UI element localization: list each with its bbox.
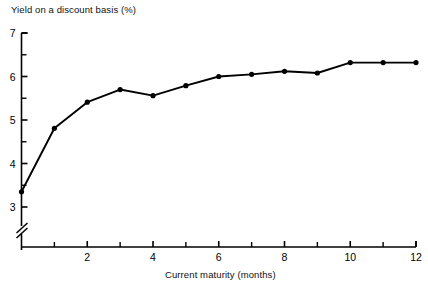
line-chart-plot: 34567 24681012 xyxy=(0,0,428,286)
svg-text:2: 2 xyxy=(84,251,90,263)
svg-text:12: 12 xyxy=(410,251,422,263)
axis-lines xyxy=(22,33,417,250)
x-axis-ticks xyxy=(54,241,416,247)
svg-text:10: 10 xyxy=(344,251,356,263)
svg-text:6: 6 xyxy=(10,71,16,83)
svg-text:3: 3 xyxy=(10,201,16,213)
x-axis-title: Current maturity (months) xyxy=(165,269,276,280)
x-axis-tick-labels: 24681012 xyxy=(84,251,422,263)
data-series-line xyxy=(22,63,417,192)
svg-text:4: 4 xyxy=(10,158,16,170)
svg-text:4: 4 xyxy=(150,251,156,263)
y-axis-tick-labels: 34567 xyxy=(10,27,16,213)
svg-text:7: 7 xyxy=(10,27,16,39)
svg-text:5: 5 xyxy=(10,114,16,126)
svg-text:6: 6 xyxy=(216,251,222,263)
svg-text:8: 8 xyxy=(282,251,288,263)
data-point-markers xyxy=(19,60,419,194)
chart-container: Yield on a discount basis (%) 34567 2468… xyxy=(0,0,428,286)
